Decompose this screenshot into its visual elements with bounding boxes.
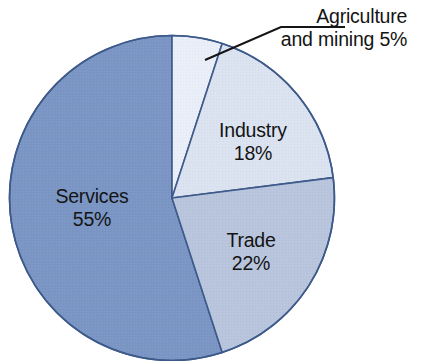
pie-label-services-name: Services [55,185,128,208]
pie-chart: Services 55% Industry 18% Trade 22% Agri… [0,0,424,361]
pie-label-trade: Trade 22% [226,229,275,274]
pie-chart-canvas [0,0,424,361]
pie-label-industry-name: Industry [219,119,287,142]
pie-label-trade-name: Trade [226,229,275,252]
pie-label-services-value: 55% [55,208,128,231]
pie-label-agriculture-line1: Agriculture [281,5,407,28]
pie-label-industry-value: 18% [219,142,287,165]
pie-label-agriculture: Agriculture and mining 5% [281,5,407,50]
pie-label-services: Services 55% [55,185,128,230]
pie-label-agriculture-line2: and mining 5% [281,28,407,51]
pie-texture-overlay [0,0,424,361]
pie-label-industry: Industry 18% [219,119,287,164]
pie-label-trade-value: 22% [226,252,275,275]
